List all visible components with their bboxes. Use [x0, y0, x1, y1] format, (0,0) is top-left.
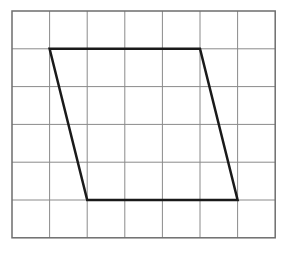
grid-diagram	[0, 0, 285, 255]
grid-lines	[12, 11, 275, 238]
